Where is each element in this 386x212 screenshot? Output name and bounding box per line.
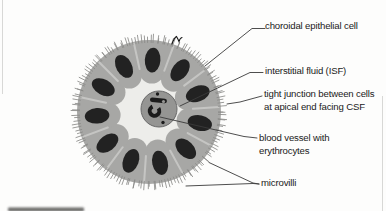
label-microvilli: microvilli [261,177,296,188]
leader-tight-junction [227,96,262,104]
label-tight-junction-line1: tight junction between cells [264,88,375,99]
leader-microvilli-lower [186,184,259,187]
blood-vessel [141,91,177,127]
label-tight-junction-line2: at apical end facing CSF [264,101,365,112]
erythrocyte-notch [162,100,165,103]
leader-epithelial-cell [205,29,265,67]
leader-microvilli-upper [209,163,259,185]
label-blood-vessel-line2: erythrocytes [259,145,310,156]
vessel-wall-dot-top [156,92,159,95]
vessel-wall-dot-bottom [161,121,164,124]
choroid-plexus-diagram: choroidal epithelial cell interstitial f… [0,0,386,211]
figure-canvas: choroidal epithelial cell interstitial f… [0,0,386,211]
label-blood-vessel-line1: blood vessel with [259,132,330,143]
label-choroidal-epithelial-cell: choroidal epithelial cell [265,20,358,31]
label-interstitial-fluid: interstitial fluid (ISF) [265,65,346,76]
bottom-edge-bar [8,208,84,212]
figure-labels: choroidal epithelial cell interstitial f… [259,20,375,188]
